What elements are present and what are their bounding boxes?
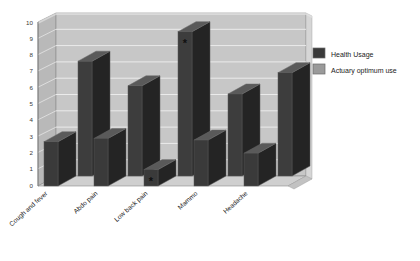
category-labels: Cough and feverAbdo painLow back painMam… [8,189,249,228]
y-tick: 2 [30,149,34,156]
bar-front-face [44,142,58,186]
y-tick: 1 [30,165,34,172]
legend-label-actuary-optimum-use: Actuary optimum use [331,67,397,75]
y-tick: 3 [30,133,34,140]
y-tick: 0 [30,182,34,189]
bar-front-face [228,94,242,176]
category-label-mammo: Mammo [176,189,199,210]
y-tick: 6 [30,84,34,91]
bar-front-face [278,73,292,176]
bar-front-face [128,86,142,176]
chart-legend: Health Usage Actuary optimum use [313,48,397,75]
legend-label-health-usage: Health Usage [331,51,374,59]
legend-swatch-health-usage [313,48,325,58]
bar-front-face [244,153,258,186]
bar-side-face [292,63,310,176]
bar-cough-and-fever-health-usage [44,132,76,186]
bar-side-face [142,76,160,176]
category-label-headache: Headache [222,189,249,215]
bar-annotation-star: * [149,175,154,187]
bar-front-face [194,140,208,186]
y-tick: 9 [30,35,34,42]
legend-swatch-actuary-optimum-use [313,64,325,74]
bar-headache-actuary-optimum-use [278,63,310,176]
bar-mammo-health-usage [194,130,226,186]
bar-front-face [94,138,108,186]
y-axis-ticks: 10 9 8 7 6 5 4 3 2 1 0 [26,19,33,189]
y-tick: 4 [30,116,34,123]
chart-container: 10 9 8 7 6 5 4 3 2 1 0 ** Cough and feve… [0,0,420,261]
bar-chart-3d: 10 9 8 7 6 5 4 3 2 1 0 ** Cough and feve… [0,0,420,261]
y-tick: 7 [30,67,34,74]
bar-front-face [178,32,192,176]
category-label-cough-and-fever: Cough and fever [8,189,50,228]
bar-abdo-pain-health-usage [94,128,126,186]
y-tick: 5 [30,100,34,107]
bar-annotation-star: * [183,37,188,49]
category-label-low-back-pain: Low back pain [113,189,150,223]
bar-front-face [78,61,92,176]
bar-abdo-pain-actuary-optimum-use [128,76,160,176]
y-tick: 10 [26,19,33,26]
category-label-abdo-pain: Abdo pain [72,189,100,215]
y-tick: 8 [30,51,34,58]
